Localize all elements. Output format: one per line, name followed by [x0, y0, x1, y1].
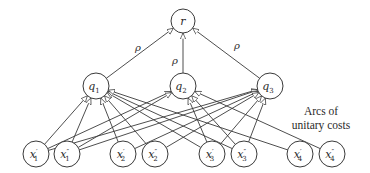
node-label: x′2 [117, 148, 125, 163]
node-label: x″1 [60, 148, 69, 163]
rho-label-middle: ρ [171, 55, 178, 66]
node-circle [257, 73, 283, 99]
middle-node-q3: q3 [257, 73, 283, 99]
nodes-layer: rq1q2q3x′1x″1x′2x″2x′3x″3x′4x″4 [23, 9, 345, 167]
leaf-node-x3p: x′3 [199, 141, 225, 167]
leaf-node-x4pp: x″4 [319, 141, 345, 167]
unit-cost-arc-x4p-to-q1 [108, 90, 287, 150]
leaf-node-x1p: x′1 [23, 141, 49, 167]
unit-cost-arc-x1pp-to-q3 [79, 90, 257, 150]
graph-diagram: rq1q2q3x′1x″1x′2x″2x′3x″3x′4x″4 ρ ρ ρ [0, 0, 370, 173]
leaf-node-x2pp: x″2 [142, 141, 168, 167]
rho-arc-q3-to-r [193, 28, 260, 78]
unit-cost-arc-x1p-to-q1 [45, 96, 88, 145]
node-label: r [180, 15, 186, 28]
node-label: x″4 [325, 148, 335, 163]
arcs-annotation: Arcs of unitary costs [276, 104, 366, 132]
edge-labels-layer: ρ ρ ρ [134, 40, 240, 66]
node-circle [83, 73, 109, 99]
node-label: x′1 [30, 148, 38, 163]
middle-node-q2: q2 [170, 73, 196, 99]
unit-cost-arc-x2p-to-q1 [101, 98, 118, 142]
annotation-line-2: unitary costs [276, 118, 366, 132]
node-label: x″3 [237, 148, 246, 163]
node-label: x′4 [294, 148, 303, 163]
node-label: x′3 [206, 148, 214, 163]
root-node-r: r [171, 9, 195, 33]
leaf-node-x2p: x′2 [110, 141, 136, 167]
node-circle [170, 73, 196, 99]
rho-arc-q1-to-r [106, 28, 173, 78]
rho-label-left: ρ [134, 42, 141, 53]
node-label: x″2 [148, 148, 157, 163]
leaf-node-x3pp: x″3 [231, 141, 257, 167]
annotation-line-1: Arcs of [276, 104, 366, 118]
unit-cost-arc-x1pp-to-q1 [72, 98, 91, 142]
middle-node-q1: q1 [83, 73, 109, 99]
rho-label-right: ρ [233, 40, 240, 51]
leaf-node-x4p: x′4 [287, 141, 313, 167]
leaf-node-x1pp: x″1 [54, 141, 80, 167]
